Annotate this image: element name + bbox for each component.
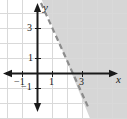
coordinate-plane-svg xyxy=(0,0,127,119)
x-axis-label: x xyxy=(116,74,121,85)
x-tick-label-1: 1 xyxy=(49,77,54,87)
y-tick-label-3: 3 xyxy=(27,23,32,33)
y-axis-arrow-down xyxy=(34,103,41,112)
shaded-solution-region xyxy=(42,0,127,119)
x-tick-label-3: 3 xyxy=(79,77,84,87)
y-axis-label: y xyxy=(43,2,48,13)
y-tick-label-neg1: −1 xyxy=(21,82,32,92)
graph-figure: x y −1 1 3 3 1 −1 xyxy=(0,0,127,119)
y-axis xyxy=(34,3,41,112)
y-tick-label-1: 1 xyxy=(28,53,33,63)
y-axis-arrow-up xyxy=(34,3,41,12)
